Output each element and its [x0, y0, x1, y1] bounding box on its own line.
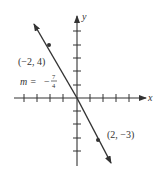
slope-denominator: 4 — [52, 82, 56, 89]
graph-line-lower — [77, 98, 111, 163]
x-axis — [14, 94, 146, 102]
point-label-2-neg3: (2, −3) — [107, 129, 134, 141]
slope-sign: − — [44, 76, 50, 87]
x-axis-label: x — [147, 92, 153, 103]
slope-label: m = − 7 4 — [20, 73, 57, 89]
y-axis-label: y — [81, 11, 87, 22]
slope-m: m = — [20, 76, 36, 87]
y-axis — [73, 16, 81, 166]
slope-numerator: 7 — [52, 73, 56, 80]
point-label-neg2-4: (−2, 4) — [18, 56, 45, 68]
point-2-neg3 — [96, 138, 100, 142]
coordinate-plane: x y (−2, 4) (2, −3) m = − 7 4 — [0, 0, 161, 176]
point-neg2-4 — [47, 43, 51, 47]
